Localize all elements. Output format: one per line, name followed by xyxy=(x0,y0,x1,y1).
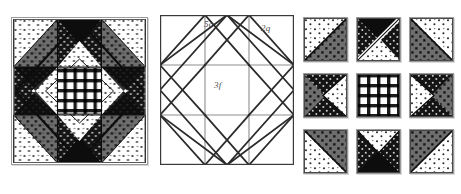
unit-middle-center xyxy=(356,73,401,118)
piecing-diagram-panel: 5c 2q 3f xyxy=(160,15,294,165)
unit-row xyxy=(303,129,456,176)
unit-bottom-center xyxy=(356,129,401,174)
unit-top-right xyxy=(409,17,454,62)
piecing-diagram-art xyxy=(160,15,294,165)
finished-block-art xyxy=(13,19,146,163)
diagram-label-5c: 5c xyxy=(204,19,213,29)
unit-grid-panel xyxy=(303,17,456,177)
unit-bottom-left xyxy=(303,129,348,174)
finished-block-panel xyxy=(11,17,148,165)
diagram-label-3f: 3f xyxy=(214,80,221,90)
unit-row xyxy=(303,17,456,64)
unit-top-center xyxy=(356,17,401,62)
unit-row xyxy=(303,73,456,120)
unit-top-left xyxy=(303,17,348,62)
unit-middle-right xyxy=(409,73,454,118)
diagram-label-2q: 2q xyxy=(261,23,270,33)
unit-middle-left xyxy=(303,73,348,118)
unit-bottom-right xyxy=(409,129,454,174)
